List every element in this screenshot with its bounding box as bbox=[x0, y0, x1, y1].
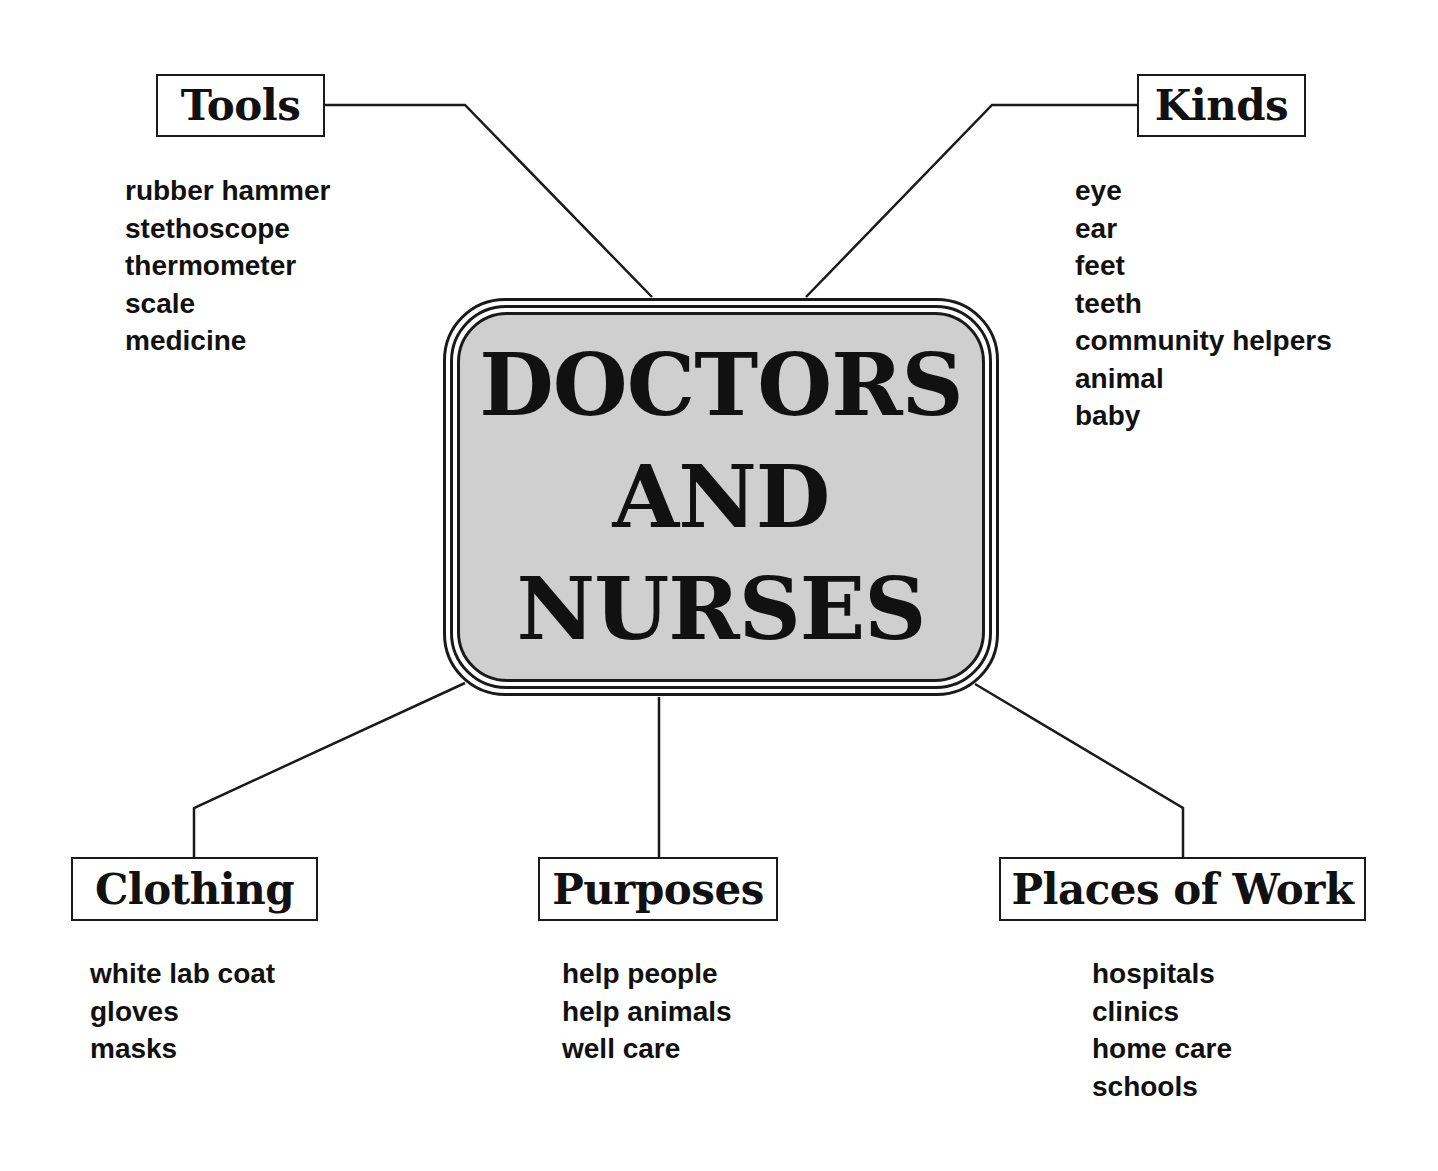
list-item: baby bbox=[1075, 397, 1332, 435]
list-item: schools bbox=[1092, 1068, 1232, 1106]
central-title-line-2: AND bbox=[613, 441, 830, 553]
list-item: feet bbox=[1075, 247, 1332, 285]
connector-tools bbox=[325, 105, 652, 297]
branch-label-places-of-work: Places of Work bbox=[999, 857, 1366, 921]
list-item: ear bbox=[1075, 210, 1332, 248]
list-item: animal bbox=[1075, 360, 1332, 398]
clothing-list: white lab coat gloves masks bbox=[90, 955, 275, 1068]
list-item: eye bbox=[1075, 172, 1332, 210]
list-item: home care bbox=[1092, 1030, 1232, 1068]
list-item: masks bbox=[90, 1030, 275, 1068]
central-topic: DOCTORS AND NURSES bbox=[443, 298, 999, 696]
list-item: gloves bbox=[90, 993, 275, 1031]
branch-label-clothing: Clothing bbox=[71, 857, 318, 921]
purposes-list: help people help animals well care bbox=[562, 955, 732, 1068]
connector-places-of-work bbox=[975, 684, 1183, 858]
connector-clothing bbox=[194, 683, 465, 858]
kinds-list: eye ear feet teeth community helpers ani… bbox=[1075, 172, 1332, 435]
central-title-line-3: NURSES bbox=[517, 553, 926, 665]
list-item: help animals bbox=[562, 993, 732, 1031]
list-item: thermometer bbox=[125, 247, 330, 285]
list-item: white lab coat bbox=[90, 955, 275, 993]
list-item: help people bbox=[562, 955, 732, 993]
places-of-work-list: hospitals clinics home care schools bbox=[1092, 955, 1232, 1105]
tools-list: rubber hammer stethoscope thermometer sc… bbox=[125, 172, 330, 360]
list-item: well care bbox=[562, 1030, 732, 1068]
list-item: stethoscope bbox=[125, 210, 330, 248]
list-item: hospitals bbox=[1092, 955, 1232, 993]
branch-label-kinds: Kinds bbox=[1137, 74, 1306, 137]
list-item: community helpers bbox=[1075, 322, 1332, 360]
branch-label-tools: Tools bbox=[156, 74, 325, 137]
list-item: medicine bbox=[125, 322, 330, 360]
branch-label-purposes: Purposes bbox=[538, 857, 778, 921]
central-title-line-1: DOCTORS bbox=[479, 329, 962, 441]
list-item: clinics bbox=[1092, 993, 1232, 1031]
list-item: scale bbox=[125, 285, 330, 323]
list-item: rubber hammer bbox=[125, 172, 330, 210]
list-item: teeth bbox=[1075, 285, 1332, 323]
